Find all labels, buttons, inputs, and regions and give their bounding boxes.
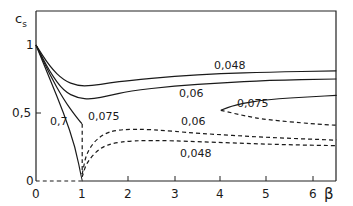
chart-canvas: 0 1 2 3 4 5 6 β 0 0,5 1 cs 0,048 0,06 0,… — [0, 0, 353, 206]
label-0048-solid: 0,048 — [214, 59, 246, 72]
curve-5 — [221, 110, 337, 125]
chart: 0 1 2 3 4 5 6 β 0 0,5 1 cs 0,048 0,06 0,… — [0, 0, 353, 206]
x-tick-2: 2 — [124, 187, 132, 201]
x-tick-1: 1 — [78, 187, 86, 201]
x-tick-0: 0 — [32, 187, 40, 201]
x-tick-4: 4 — [216, 187, 224, 201]
y-axis-label: cs — [15, 11, 27, 29]
label-0075-left: 0,075 — [88, 110, 120, 123]
label-0048-dashed: 0,048 — [180, 147, 212, 160]
y-tick-1: 1 — [26, 38, 34, 52]
curve-3 — [36, 45, 82, 181]
label-006-dashed: 0,06 — [181, 115, 206, 128]
x-ticks — [36, 113, 313, 181]
label-07: 0,7 — [50, 115, 68, 128]
x-tick-5: 5 — [262, 187, 270, 201]
x-tick-3: 3 — [171, 187, 179, 201]
label-006-solid: 0,06 — [179, 87, 204, 100]
label-0075-right: 0,075 — [237, 97, 269, 110]
x-tick-6: 6 — [309, 187, 317, 201]
data-curves — [36, 45, 336, 181]
x-axis-label: β — [324, 185, 334, 203]
y-tick-0-5: 0,5 — [12, 106, 31, 120]
y-tick-0: 0 — [26, 174, 34, 188]
